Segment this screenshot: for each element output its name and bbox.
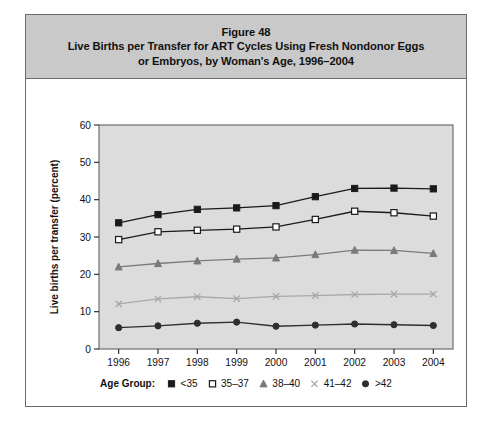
x-axis-tick-label: 2004 — [422, 357, 445, 368]
chart-legend: Age Group: <3535–3738–4041–42>42 — [26, 378, 466, 389]
data-point — [155, 212, 161, 218]
data-point — [312, 381, 318, 387]
data-point — [116, 237, 122, 243]
data-point — [363, 381, 369, 387]
figure-title-line-2: or Embryos, by Woman's Age, 1996–2004 — [138, 54, 354, 69]
data-point — [273, 203, 279, 209]
legend-label: <35 — [181, 378, 198, 389]
legend-label: 41–42 — [324, 378, 352, 389]
data-point — [391, 210, 397, 216]
data-point — [116, 220, 122, 226]
legend-label: 35–37 — [221, 378, 249, 389]
data-point — [273, 323, 279, 329]
y-axis-tick-label: 10 — [80, 306, 92, 317]
plot-background — [99, 125, 453, 349]
legend-label: 38–40 — [272, 378, 300, 389]
data-point — [234, 319, 240, 325]
x-axis-tick-label: 2000 — [265, 357, 288, 368]
y-axis-tick-label: 50 — [80, 157, 92, 168]
data-point — [352, 185, 358, 191]
data-point — [312, 216, 318, 222]
figure-frame: Figure 48 Live Births per Transfer for A… — [25, 14, 467, 407]
x-axis-tick-label: 2002 — [343, 357, 366, 368]
legend-entry-<35: <35 — [166, 378, 197, 389]
y-axis-tick-label: 0 — [85, 344, 91, 355]
y-axis-tick-label: 60 — [80, 120, 92, 131]
data-point — [391, 185, 397, 191]
legend-label: >42 — [375, 378, 392, 389]
data-point — [209, 381, 215, 387]
y-axis-tick-label: 20 — [80, 269, 92, 280]
x-axis-tick-label: 1998 — [186, 357, 209, 368]
data-point — [352, 208, 358, 214]
data-point — [430, 186, 436, 192]
data-point — [194, 320, 200, 326]
legend-marker-filled-square-icon — [166, 378, 177, 389]
legend-entry-41–42: 41–42 — [309, 378, 351, 389]
data-point — [194, 227, 200, 233]
legend-marker-filled-circle-icon — [360, 378, 371, 389]
data-point — [234, 205, 240, 211]
y-axis-title: Live births per transfer (percent) — [49, 160, 60, 314]
line-chart: 0102030405060199619971998199920002001200… — [26, 79, 466, 379]
plot-area: 0102030405060199619971998199920002001200… — [26, 79, 466, 407]
x-axis-tick-label: 1997 — [147, 357, 170, 368]
data-point — [430, 322, 436, 328]
x-axis-tick-label: 1996 — [107, 357, 130, 368]
data-point — [312, 322, 318, 328]
legend-marker-filled-triangle-icon — [258, 378, 269, 389]
figure-number: Figure 48 — [222, 25, 271, 40]
data-point — [234, 226, 240, 232]
data-point — [430, 213, 436, 219]
x-axis-tick-label: 1999 — [225, 357, 248, 368]
legend-entry-38–40: 38–40 — [258, 378, 300, 389]
data-point — [168, 381, 174, 387]
data-point — [260, 380, 267, 387]
figure-header: Figure 48 Live Births per Transfer for A… — [26, 15, 466, 79]
legend-entry->42: >42 — [360, 378, 391, 389]
data-point — [312, 194, 318, 200]
data-point — [391, 322, 397, 328]
data-point — [155, 229, 161, 235]
x-axis-tick-label: 2001 — [304, 357, 327, 368]
y-axis-tick-label: 40 — [80, 194, 92, 205]
legend-title: Age Group: — [100, 378, 155, 389]
data-point — [273, 224, 279, 230]
data-point — [352, 321, 358, 327]
figure-title-line-1: Live Births per Transfer for ART Cycles … — [68, 39, 425, 54]
y-axis-tick-label: 30 — [80, 232, 92, 243]
data-point — [116, 325, 122, 331]
legend-marker-open-square-icon — [207, 378, 218, 389]
legend-entry-35–37: 35–37 — [207, 378, 249, 389]
data-point — [194, 206, 200, 212]
legend-marker-cross-x-icon — [309, 378, 320, 389]
x-axis-tick-label: 2003 — [383, 357, 406, 368]
data-point — [155, 323, 161, 329]
